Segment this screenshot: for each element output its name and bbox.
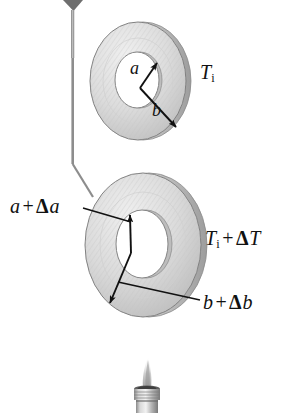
label-outer-radius: b xyxy=(152,101,161,119)
label-outer-radius-expanded: b+Δb xyxy=(203,292,252,312)
washer-initial xyxy=(90,22,191,140)
washer-expanded xyxy=(85,173,207,317)
figure-canvas: Ti Ti+ΔT a+Δa b+Δb a b xyxy=(0,0,308,413)
torch-burner xyxy=(134,356,160,413)
radius-arrow-a-expanded xyxy=(130,215,131,253)
label-initial-temperature: Ti xyxy=(200,62,215,85)
label-final-temperature: Ti+ΔT xyxy=(205,228,260,251)
label-inner-radius-expanded: a+Δa xyxy=(10,196,59,216)
label-inner-radius: a xyxy=(130,59,139,77)
pointer-probe xyxy=(63,0,93,197)
